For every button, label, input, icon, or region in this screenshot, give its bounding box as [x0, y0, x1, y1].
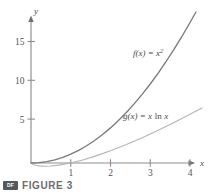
curve-label-f: f(x) = x2 [133, 47, 164, 58]
media-badge-icon: DF [3, 181, 18, 190]
curve-g-x-ln-x [32, 108, 202, 166]
x-tick-label-4: 4 [188, 168, 193, 176]
x-tick-label-2: 2 [108, 168, 113, 176]
y-axis-label: y [33, 6, 38, 16]
x-axis-label: x [199, 158, 204, 168]
figure-container: 15 10 5 1 2 3 4 y x f(x) = x2 [0, 0, 210, 194]
y-tick-label-15: 15 [15, 37, 25, 47]
media-badge-text: DF [7, 183, 14, 188]
curve-label-g-operator: ln [155, 111, 163, 121]
plot-area: 15 10 5 1 2 3 4 y x f(x) = x2 [0, 0, 210, 176]
svg-text:g(x) = xlnx: g(x) = xlnx [123, 111, 168, 121]
curve-label-f-exponent: 2 [160, 47, 164, 54]
figure-caption: DF FIGURE 3 [0, 176, 210, 194]
y-tick-label-10: 10 [15, 76, 25, 86]
x-tick-label-3: 3 [148, 168, 153, 176]
axes-group [28, 16, 195, 166]
x-tick-label-1: 1 [68, 168, 73, 176]
curve-label-g-variable: x [163, 111, 168, 121]
curve-label-f-text: f(x) = x [133, 48, 160, 58]
y-tick-label-5: 5 [20, 115, 25, 125]
curve-label-g-text: g(x) = x [123, 111, 152, 121]
figure-caption-label: FIGURE 3 [22, 180, 73, 191]
y-axis-arrow [28, 16, 33, 23]
curve-f-x-squared [31, 12, 196, 163]
chart-svg: 15 10 5 1 2 3 4 y x f(x) = x2 [0, 0, 210, 176]
curve-label-g: g(x) = xlnx [123, 111, 168, 121]
svg-text:f(x) = x2: f(x) = x2 [133, 47, 164, 58]
